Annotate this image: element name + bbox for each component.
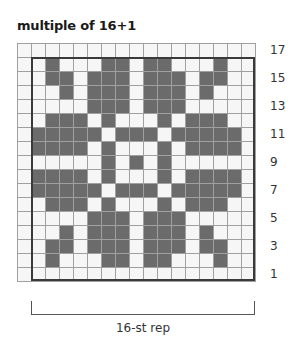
stitch-cell-main xyxy=(88,156,102,170)
stitch-cell-main xyxy=(116,156,130,170)
stitch-cell-contrast xyxy=(88,212,102,226)
stitch-cell-main xyxy=(102,268,116,282)
stitch-cell-contrast xyxy=(158,198,172,212)
stitch-cell-contrast xyxy=(130,128,144,142)
stitch-cell-contrast xyxy=(88,240,102,254)
repeat-label: 16-st rep xyxy=(31,321,255,335)
stitch-cell-contrast xyxy=(60,128,74,142)
stitch-cell-main xyxy=(158,184,172,198)
stitch-cell-contrast xyxy=(144,184,158,198)
stitch-cell-contrast xyxy=(88,100,102,114)
stitch-cell-contrast xyxy=(158,142,172,156)
stitch-cell-contrast xyxy=(102,240,116,254)
stitch-cell-main xyxy=(18,142,32,156)
stitch-cell-main xyxy=(172,58,186,72)
stitch-cell-main xyxy=(74,254,88,268)
stitch-cell-main xyxy=(130,268,144,282)
stitch-cell-contrast xyxy=(102,170,116,184)
stitch-cell-contrast xyxy=(60,184,74,198)
stitch-cell-main xyxy=(32,72,46,86)
stitch-cell-contrast xyxy=(102,72,116,86)
stitch-cell-main xyxy=(60,268,74,282)
stitch-cell-contrast xyxy=(130,184,144,198)
repeat-bracket xyxy=(31,301,255,315)
chart-title: multiple of 16+1 xyxy=(17,18,136,33)
row-label-17: 17 xyxy=(270,43,285,57)
stitch-cell-contrast xyxy=(46,184,60,198)
stitch-cell-contrast xyxy=(200,198,214,212)
stitch-cell-contrast xyxy=(186,128,200,142)
stitch-cell-main xyxy=(74,58,88,72)
stitch-cell-main xyxy=(46,156,60,170)
stitch-cell-contrast xyxy=(88,72,102,86)
stitch-cell-contrast xyxy=(200,114,214,128)
stitch-cell-contrast xyxy=(102,254,116,268)
stitch-cell-main xyxy=(172,268,186,282)
stitch-cell-main xyxy=(74,72,88,86)
stitch-cell-contrast xyxy=(214,240,228,254)
stitch-cell-contrast xyxy=(60,142,74,156)
stitch-cell-main xyxy=(116,170,130,184)
stitch-cell-main xyxy=(172,156,186,170)
stitch-cell-main xyxy=(172,254,186,268)
stitch-cell-main xyxy=(130,100,144,114)
stitch-cell-contrast xyxy=(228,170,242,184)
stitch-cell-main xyxy=(200,156,214,170)
stitch-cell-contrast xyxy=(32,128,46,142)
stitch-cell-main xyxy=(228,268,242,282)
stitch-cell-main xyxy=(130,142,144,156)
stitch-cell-main xyxy=(242,128,256,142)
stitch-cell-main xyxy=(18,254,32,268)
stitch-cell-contrast xyxy=(214,198,228,212)
stitch-cell-contrast xyxy=(116,254,130,268)
stitch-cell-contrast xyxy=(32,142,46,156)
stitch-cell-main xyxy=(228,198,242,212)
stitch-cell-contrast xyxy=(74,142,88,156)
stitch-cell-main xyxy=(186,212,200,226)
stitch-cell-main xyxy=(18,156,32,170)
stitch-cell-contrast xyxy=(200,142,214,156)
stitch-cell-contrast xyxy=(200,72,214,86)
stitch-cell-contrast xyxy=(116,184,130,198)
stitch-cell-main xyxy=(214,86,228,100)
stitch-cell-contrast xyxy=(102,198,116,212)
stitch-cell-main xyxy=(130,44,144,58)
stitch-cell-contrast xyxy=(60,198,74,212)
stitch-cell-contrast xyxy=(200,184,214,198)
stitch-cell-main xyxy=(214,226,228,240)
stitch-cell-main xyxy=(88,114,102,128)
stitch-cell-contrast xyxy=(88,86,102,100)
stitch-cell-main xyxy=(242,184,256,198)
stitch-cell-contrast xyxy=(144,128,158,142)
stitch-cell-main xyxy=(242,212,256,226)
stitch-cell-main xyxy=(88,198,102,212)
row-label-1: 1 xyxy=(270,267,278,281)
stitch-cell-contrast xyxy=(158,72,172,86)
stitch-cell-main xyxy=(242,72,256,86)
stitch-cell-main xyxy=(200,254,214,268)
stitch-cell-main xyxy=(158,44,172,58)
stitch-cell-main xyxy=(18,198,32,212)
stitch-cell-main xyxy=(200,58,214,72)
stitch-cell-main xyxy=(18,58,32,72)
stitch-cell-contrast xyxy=(46,240,60,254)
stitch-cell-main xyxy=(74,212,88,226)
stitch-cell-contrast xyxy=(46,128,60,142)
stitch-cell-main xyxy=(228,100,242,114)
stitch-cell-main xyxy=(18,86,32,100)
stitch-cell-main xyxy=(130,72,144,86)
stitch-cell-contrast xyxy=(102,142,116,156)
stitch-cell-main xyxy=(242,240,256,254)
stitch-cell-contrast xyxy=(46,170,60,184)
stitch-cell-contrast xyxy=(214,58,228,72)
stitch-cell-contrast xyxy=(144,86,158,100)
stitch-cell-main xyxy=(32,226,46,240)
row-label-5: 5 xyxy=(270,211,278,225)
stitch-cell-main xyxy=(32,212,46,226)
stitch-cell-contrast xyxy=(228,142,242,156)
stitch-cell-main xyxy=(74,268,88,282)
stitch-cell-contrast xyxy=(46,114,60,128)
stitch-cell-main xyxy=(46,86,60,100)
row-label-15: 15 xyxy=(270,71,285,85)
stitch-cell-contrast xyxy=(172,86,186,100)
